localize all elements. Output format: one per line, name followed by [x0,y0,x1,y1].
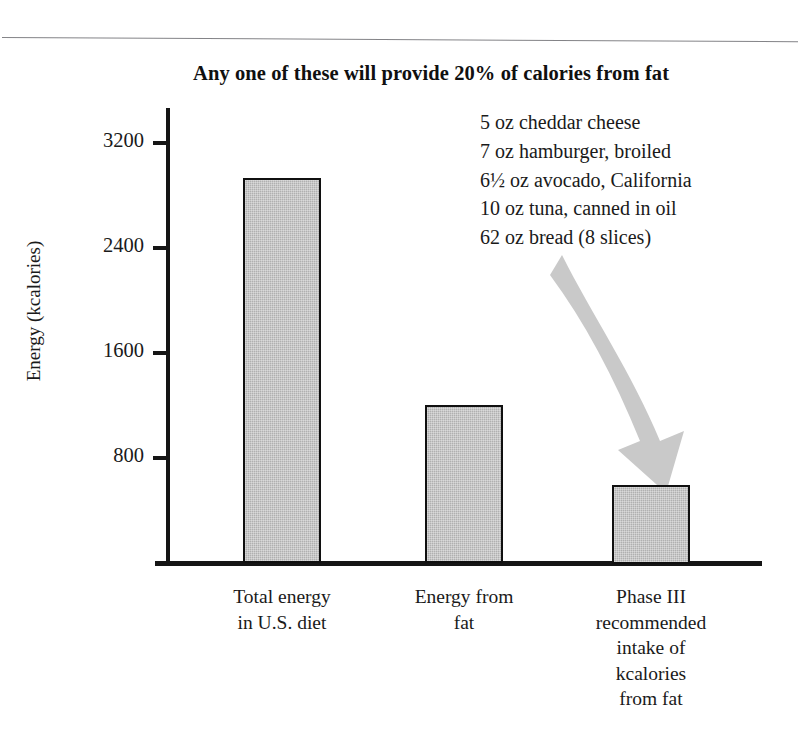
food-equivalents-list: 5 oz cheddar cheese 7 oz hamburger, broi… [480,108,692,252]
y-axis-line [166,108,170,565]
bar-label-energy-from-fat: Energy from fat [384,584,544,635]
bar-energy-from-fat [425,405,503,564]
bar-label-phase-iii: Phase III recommended intake of kcalorie… [571,584,731,712]
y-tick-label-2400: 2400 [74,234,144,257]
bar-label-line: intake of [571,635,731,661]
bar-chart-figure: Any one of these will provide 20% of cal… [0,0,801,734]
food-list-item-2: 7 oz hamburger, broiled [480,137,692,166]
food-list-item-4: 10 oz tuna, canned in oil [480,194,692,223]
y-tick-label-1600: 1600 [74,339,144,362]
bar-phase-iii-intake [612,485,690,564]
bar-label-line: recommended [571,610,731,636]
y-tick-label-3200: 3200 [74,129,144,152]
y-tick-label-800: 800 [74,444,144,467]
chart-title: Any one of these will provide 20% of cal… [193,62,773,85]
bar-label-line: Energy from [384,584,544,610]
bar-label-line: fat [384,610,544,636]
bar-label-line: from fat [571,686,731,712]
bar-label-total-energy: Total energy in U.S. diet [202,584,362,635]
food-list-item-1: 5 oz cheddar cheese [480,108,692,137]
page-top-rule [2,37,798,42]
bar-label-line: kcalories [571,661,731,687]
bar-label-line: Total energy [202,584,362,610]
y-axis-title: Energy (kcalories) [23,211,45,411]
curved-arrow-icon [548,245,728,510]
bar-label-line: Phase III [571,584,731,610]
bar-total-energy [243,178,321,564]
bar-label-line: in U.S. diet [202,610,362,636]
food-list-item-3: 6½ oz avocado, California [480,166,692,195]
